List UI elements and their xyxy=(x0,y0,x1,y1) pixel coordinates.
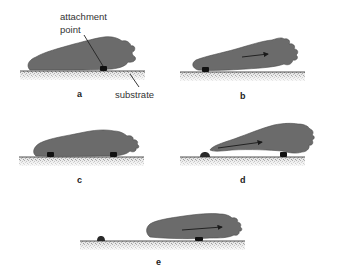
panel-a: attachment point substrate a xyxy=(20,11,154,100)
substrate xyxy=(80,241,245,250)
cell-body xyxy=(193,38,298,71)
detached-remnant xyxy=(97,236,105,241)
panel-label-a: a xyxy=(77,89,83,99)
cell-body xyxy=(210,123,314,153)
panel-label-d: d xyxy=(240,175,246,185)
substrate-label: substrate xyxy=(115,89,154,100)
panel-label-c: c xyxy=(77,175,82,185)
panel-e: e xyxy=(80,214,245,267)
panel-label-b: b xyxy=(240,91,246,101)
cell-body xyxy=(147,214,242,239)
panel-label-e: e xyxy=(156,257,161,267)
attachment-label-line1: attachment xyxy=(60,11,107,22)
cell-crawling-diagram: attachment point substrate a b c xyxy=(0,0,338,280)
panel-d: d xyxy=(180,123,314,185)
attachment-point xyxy=(280,152,287,157)
substrate xyxy=(19,157,144,166)
panel-c: c xyxy=(19,130,144,185)
panel-b: b xyxy=(180,38,305,101)
substrate xyxy=(180,72,305,81)
attachment-point-rear xyxy=(47,152,54,157)
attachment-point xyxy=(195,237,203,241)
substrate xyxy=(20,71,145,80)
substrate xyxy=(180,157,305,166)
attachment-label-line2: point xyxy=(60,24,81,35)
attachment-point xyxy=(100,66,107,71)
attachment-point-front xyxy=(110,152,117,157)
detached-remnant xyxy=(200,152,210,157)
attachment-point xyxy=(202,67,209,72)
cell-body xyxy=(28,37,136,70)
